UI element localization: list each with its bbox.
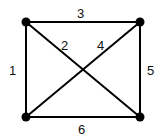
edge-label-6: 6	[78, 122, 85, 137]
edge-label-5: 5	[147, 63, 154, 78]
edge-label-2: 2	[61, 38, 68, 53]
edge-label-3: 3	[77, 6, 84, 21]
node-bottom-right	[136, 113, 145, 122]
edge-label-4: 4	[97, 38, 104, 53]
graph-diagram: 1 2 3 4 5 6	[0, 0, 160, 140]
node-bottom-left	[22, 113, 31, 122]
node-top-right	[136, 18, 145, 27]
node-top-left	[22, 18, 31, 27]
edge-label-1: 1	[9, 63, 16, 78]
